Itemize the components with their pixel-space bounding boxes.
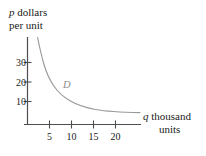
y-tick-label-20: 20: [6, 78, 26, 88]
x-tick-label-20: 20: [106, 132, 126, 142]
x-tick-label-10: 10: [62, 132, 82, 142]
demand-curve-label: D: [63, 79, 71, 90]
demand-curve: [38, 38, 140, 113]
x-axis-title-line2: units: [143, 123, 191, 136]
x-axis-title-line1: thousand: [149, 110, 191, 122]
y-tick-label-30: 30: [6, 58, 26, 68]
x-tick-label-15: 15: [84, 132, 104, 142]
y-tick-label-10: 10: [6, 97, 26, 107]
demand-curve-figure: p dollars per unit 30 20 10 5 10 15 20 D…: [0, 0, 206, 156]
x-axis-title: q thousand units: [143, 110, 191, 135]
x-tick-label-5: 5: [40, 132, 60, 142]
